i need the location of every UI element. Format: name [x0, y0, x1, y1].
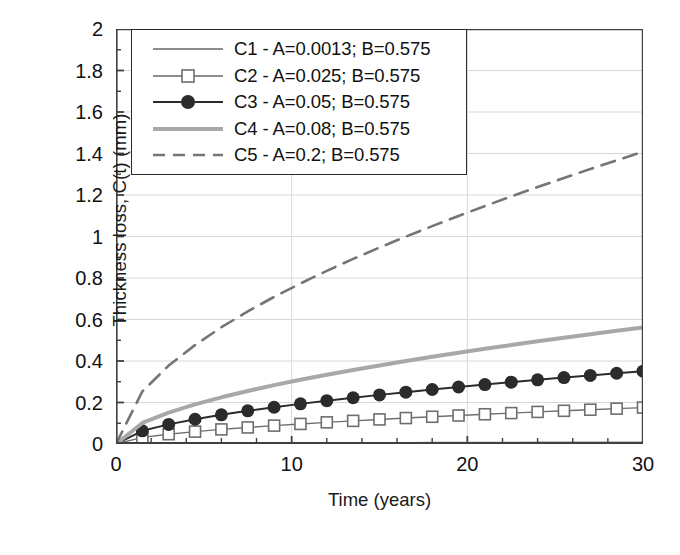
y-axis-title: Thickness loss, C(t) (mm) — [109, 10, 131, 430]
legend: C1 - A=0.0013; B=0.575 C2 - A=0.025; B=0… — [131, 29, 467, 175]
y-tick-label: 0 — [92, 433, 103, 456]
marker-c2 — [321, 417, 332, 428]
marker-c3 — [426, 383, 439, 396]
legend-item-c2: C2 - A=0.025; B=0.575 — [132, 63, 466, 90]
marker-c2 — [427, 411, 438, 422]
marker-c3 — [347, 391, 360, 404]
legend-item-c1: C1 - A=0.0013; B=0.575 — [132, 36, 466, 63]
y-tick-label: 0.6 — [75, 308, 103, 331]
marker-c2 — [242, 422, 253, 433]
marker-c2 — [216, 424, 227, 435]
marker-c2 — [611, 403, 622, 414]
marker-c2 — [348, 415, 359, 426]
marker-c3 — [268, 401, 281, 414]
legend-swatch-c2 — [149, 65, 227, 87]
marker-c3 — [505, 376, 518, 389]
legend-label-c2: C2 - A=0.025; B=0.575 — [234, 65, 420, 87]
marker-c2 — [479, 409, 490, 420]
x-tick-label: 0 — [110, 453, 121, 476]
marker-c3 — [241, 404, 254, 417]
legend-label-c5: C5 - A=0.2; B=0.575 — [234, 144, 400, 166]
marker-c2 — [506, 408, 517, 419]
y-tick-label: 1 — [92, 225, 103, 248]
marker-c3 — [584, 369, 597, 382]
marker-c3 — [452, 380, 465, 393]
y-tick-label: 0.4 — [75, 350, 103, 373]
marker-c3 — [557, 371, 570, 384]
y-tick-label: 0.2 — [75, 391, 103, 414]
legend-swatch-c5 — [149, 144, 227, 166]
marker-c2 — [374, 414, 385, 425]
chart-page: Thickness loss, C(t) (mm) 00.20.40.60.81… — [0, 0, 680, 555]
marker-c2 — [532, 406, 543, 417]
y-tick-label: 1.2 — [75, 184, 103, 207]
x-tick-label: 10 — [281, 453, 303, 476]
marker-c3 — [399, 386, 412, 399]
marker-c2 — [269, 420, 280, 431]
plot-area: Thickness loss, C(t) (mm) 00.20.40.60.81… — [116, 29, 643, 444]
marker-c2 — [585, 404, 596, 415]
marker-c3 — [162, 418, 175, 431]
marker-c3 — [215, 408, 228, 421]
legend-swatch-c4 — [149, 118, 227, 140]
legend-swatch-c3 — [149, 91, 227, 113]
x-axis-title: Time (years) — [116, 489, 643, 511]
legend-label-c4: C4 - A=0.08; B=0.575 — [234, 118, 410, 140]
legend-label-c1: C1 - A=0.0013; B=0.575 — [234, 38, 430, 60]
marker-c2 — [400, 413, 411, 424]
marker-c3 — [531, 373, 544, 386]
marker-c2 — [558, 405, 569, 416]
y-tick-label: 1.4 — [75, 142, 103, 165]
y-tick-label: 1.8 — [75, 59, 103, 82]
marker-c3 — [189, 413, 202, 426]
marker-c3 — [373, 388, 386, 401]
marker-c3 — [610, 367, 623, 380]
legend-label-c3: C3 - A=0.05; B=0.575 — [234, 91, 410, 113]
y-tick-label: 1.6 — [75, 101, 103, 124]
marker-c3 — [294, 397, 307, 410]
x-tick-label: 20 — [456, 453, 478, 476]
legend-item-c4: C4 - A=0.08; B=0.575 — [132, 116, 466, 143]
y-tick-label: 2 — [92, 18, 103, 41]
marker-c3 — [320, 394, 333, 407]
marker-c3 — [478, 378, 491, 391]
x-tick-label: 30 — [632, 453, 654, 476]
marker-c2 — [190, 426, 201, 437]
y-tick-label: 0.8 — [75, 267, 103, 290]
legend-swatch-c1 — [149, 38, 227, 60]
marker-c2 — [453, 410, 464, 421]
legend-item-c3: C3 - A=0.05; B=0.575 — [132, 89, 466, 116]
marker-c2 — [295, 418, 306, 429]
legend-item-c5: C5 - A=0.2; B=0.575 — [132, 142, 466, 169]
